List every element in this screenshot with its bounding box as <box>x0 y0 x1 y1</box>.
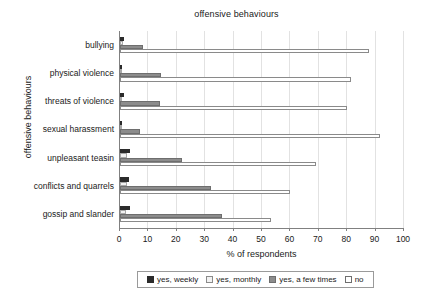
x-tick-label: 70 <box>306 234 330 244</box>
legend-item[interactable]: yes, monthly <box>206 275 261 284</box>
bar-group: bullying <box>119 31 404 59</box>
legend-swatch-icon <box>269 276 276 283</box>
legend-label: no <box>355 275 364 284</box>
x-axis-title: % of respondents <box>119 249 404 259</box>
bar-group: conflicts and quarrels <box>119 172 404 200</box>
bar <box>120 49 369 53</box>
x-axis-tick <box>375 228 376 231</box>
x-axis-tick <box>346 228 347 231</box>
legend-item[interactable]: yes, weekly <box>147 275 198 284</box>
x-axis-tick <box>233 228 234 231</box>
category-label: threats of violence <box>45 96 114 106</box>
bar <box>120 106 347 110</box>
x-axis-tick <box>147 228 148 231</box>
category-label: sexual harassment <box>43 124 114 134</box>
x-tick-label: 0 <box>107 234 131 244</box>
x-tick-label: 30 <box>192 234 216 244</box>
chart-title: offensive behaviours <box>0 9 429 19</box>
y-axis-title: offensive behaviours <box>23 37 33 197</box>
legend-item[interactable]: no <box>345 275 364 284</box>
x-tick-label: 90 <box>363 234 387 244</box>
x-axis-tick <box>318 228 319 231</box>
bar-group: threats of violence <box>119 87 404 115</box>
legend-label: yes, weekly <box>157 275 198 284</box>
legend-item[interactable]: yes, a few times <box>269 275 336 284</box>
x-tick-label: 80 <box>334 234 358 244</box>
x-axis-tick <box>403 228 404 231</box>
x-tick-label: 60 <box>277 234 301 244</box>
x-tick-label: 10 <box>135 234 159 244</box>
x-axis-tick <box>176 228 177 231</box>
x-axis-tick <box>289 228 290 231</box>
category-label: bullying <box>85 40 114 50</box>
bar-group: physical violence <box>119 59 404 87</box>
chart-title-text: offensive behaviours <box>194 9 278 19</box>
bar-group: sexual harassment <box>119 115 404 143</box>
bar <box>120 190 290 194</box>
legend-swatch-icon <box>147 276 154 283</box>
category-label: physical violence <box>50 68 114 78</box>
bar <box>120 162 316 166</box>
legend-swatch-icon <box>206 276 213 283</box>
x-tick-label: 50 <box>249 234 273 244</box>
x-axis-tick <box>204 228 205 231</box>
offensive-behaviours-chart: offensive behaviours offensive behaviour… <box>0 0 429 301</box>
legend-swatch-icon <box>345 276 352 283</box>
chart-legend: yes, weeklyyes, monthlyyes, a few timesn… <box>137 271 374 288</box>
x-tick-label: 20 <box>164 234 188 244</box>
bar-group: gossip and slander <box>119 200 404 228</box>
bar <box>120 77 351 81</box>
legend-label: yes, monthly <box>216 275 261 284</box>
x-axis-tick <box>119 228 120 231</box>
plot-area: 0102030405060708090100bullyingphysical v… <box>119 31 404 228</box>
legend-label: yes, a few times <box>279 275 336 284</box>
x-tick-label: 100 <box>391 234 415 244</box>
bar-group: unpleasant teasin <box>119 144 404 172</box>
category-label: gossip and slander <box>43 209 114 219</box>
category-label: unpleasant teasin <box>47 153 114 163</box>
bar <box>120 218 271 222</box>
category-label: conflicts and quarrels <box>34 181 114 191</box>
x-tick-label: 40 <box>221 234 245 244</box>
x-axis-tick <box>261 228 262 231</box>
bar <box>120 134 380 138</box>
